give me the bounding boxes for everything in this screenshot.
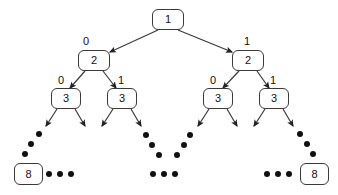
edge-label-l2r-right: 1 [270,75,276,86]
tree-edge-l3-b-to-dots-b2 [131,109,141,126]
tree-node-label: 3 [215,93,221,104]
tree-node-root: 1 [152,9,184,30]
tree-node-label: 3 [63,93,69,104]
edge-label-root-left: 0 [83,36,89,47]
tree-edge-l2-left-to-l3-b [103,71,116,88]
tree-edge-l2-right-to-l3-c [223,71,239,88]
edge-label-root-right: 1 [244,36,250,47]
diagram-canvas: 122333388 010101 [0,0,338,195]
tree-node-label: 3 [119,93,125,104]
tree-edge-l2-left-to-l3-a [70,71,85,88]
edge-label-l2l-left: 0 [58,75,64,86]
tree-node-label: 8 [311,169,317,180]
tree-node-l2-left: 2 [78,50,110,71]
tree-edge-root-to-l2-right [178,30,232,52]
tree-edge-l3-c-to-dots-c2 [227,109,237,126]
tree-edge-l3-d-to-dots-d2 [283,109,293,126]
tree-node-leaf-left: 8 [14,163,43,185]
tree-node-leaf-right: 8 [300,163,329,185]
tree-edge-l3-a-to-dots-a2 [75,109,85,126]
tree-node-l3-d: 3 [259,88,289,109]
edge-label-l2l-right: 1 [118,75,124,86]
tree-edge-l3-c-to-dots-c1 [198,109,209,126]
tree-node-l3-b: 3 [107,88,137,109]
tree-node-l3-c: 3 [203,88,233,109]
tree-edge-l3-d-to-dots-d1 [254,109,265,126]
tree-node-label: 3 [271,93,277,104]
tree-edge-root-to-l2-left [110,30,158,52]
tree-edge-l3-b-to-dots-b1 [102,109,113,126]
tree-edge-l2-right-to-l3-d [257,71,269,88]
tree-node-label: 8 [25,169,31,180]
tree-node-l2-right: 2 [232,50,264,71]
tree-edge-l3-a-to-dots-a1 [46,109,57,126]
tree-node-l3-a: 3 [51,88,81,109]
edge-label-l2r-left: 0 [210,75,216,86]
tree-node-label: 1 [165,14,171,25]
tree-node-label: 2 [91,55,97,66]
tree-node-label: 2 [245,55,251,66]
